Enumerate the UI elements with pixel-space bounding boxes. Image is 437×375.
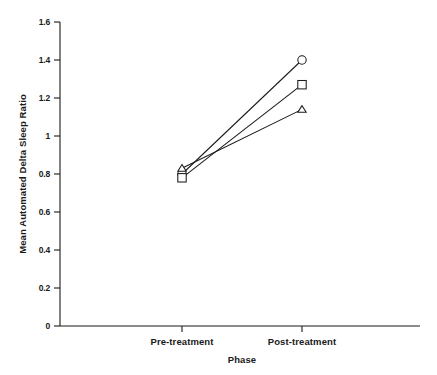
x-axis-title: Phase (228, 354, 257, 365)
series-line-square (182, 85, 302, 178)
x-tick-label-pre-treatment: Pre-treatment (150, 336, 214, 347)
data-point-square-pre-treatment (178, 174, 186, 182)
x-tick-marks (182, 326, 302, 332)
y-tick-label-1-6: 1.6 (39, 17, 51, 27)
y-tick-label-0-8: 0.8 (39, 169, 51, 179)
y-tick-label-0-4: 0.4 (39, 245, 51, 255)
series-line-circle (182, 60, 302, 174)
y-tick-label-0: 0 (45, 321, 50, 331)
data-point-square-post-treatment (298, 81, 306, 89)
data-point-circle-post-treatment (298, 56, 306, 64)
y-axis-title: Mean Automated Delta Sleep Ratio (17, 94, 28, 254)
x-tick-label-post-treatment: Post-treatment (268, 336, 337, 347)
y-tick-label-1-4: 1.4 (39, 55, 51, 65)
y-tick-label-0-2: 0.2 (39, 283, 51, 293)
y-tick-label-0-6: 0.6 (39, 207, 51, 217)
data-point-triangle-pre-treatment (178, 165, 186, 172)
y-tick-marks (54, 22, 60, 326)
series-line-triangle (182, 109, 302, 168)
line-chart: 1.6 1.4 1.2 1 0.8 0.6 0.4 0.2 0 Pre-trea… (0, 0, 437, 375)
series-triangle (178, 106, 306, 172)
data-point-triangle-post-treatment (298, 106, 306, 113)
chart-page: 1.6 1.4 1.2 1 0.8 0.6 0.4 0.2 0 Pre-trea… (0, 0, 437, 375)
series-layer (178, 56, 306, 182)
series-square (178, 81, 306, 183)
y-tick-label-1: 1 (45, 131, 50, 141)
y-tick-label-1-2: 1.2 (39, 93, 51, 103)
